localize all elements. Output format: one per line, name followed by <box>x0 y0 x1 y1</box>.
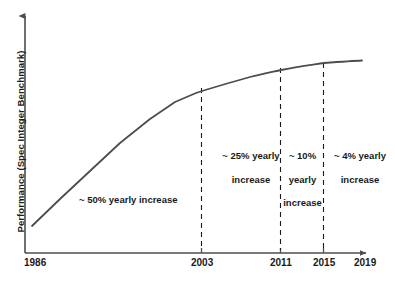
annotation-25-percent-line2: increase <box>232 174 271 185</box>
performance-trend-chart: Performance (Spec Integer Benchmark) 198… <box>0 0 395 283</box>
x-tick-label-2003: 2003 <box>191 257 213 268</box>
annotation-10-percent: ~ 10% yearly increase <box>282 138 323 209</box>
annotation-4-percent-line1: ~ 4% yearly <box>334 150 386 161</box>
annotation-10-percent-line3: increase <box>283 197 322 208</box>
annotation-4-percent-line2: increase <box>341 174 380 185</box>
x-tick-label-2015: 2015 <box>313 257 335 268</box>
y-axis-label: Performance (Spec Integer Benchmark) <box>15 42 26 242</box>
annotation-4-percent: ~ 4% yearly increase <box>328 138 392 186</box>
annotation-50-percent: ~ 50% yearly increase <box>79 194 178 206</box>
annotation-10-percent-line1: ~ 10% <box>289 150 316 161</box>
annotation-25-percent-line1: ~ 25% yearly <box>222 150 279 161</box>
x-tick-label-2019: 2019 <box>354 257 376 268</box>
x-tick-label-2011: 2011 <box>270 257 292 268</box>
x-tick-label-1986: 1986 <box>24 257 46 268</box>
annotation-10-percent-line2: yearly <box>289 174 316 185</box>
